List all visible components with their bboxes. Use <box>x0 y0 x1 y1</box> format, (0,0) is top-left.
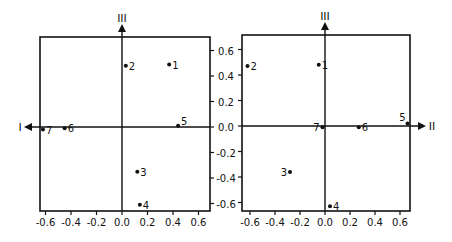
data-point-6: 6 <box>63 123 74 134</box>
y-tick-label: -0.6 <box>216 199 236 210</box>
point-marker <box>167 63 171 67</box>
data-point-1: 1 <box>167 60 178 71</box>
y-tick-label: 0.6 <box>218 46 234 57</box>
data-point-7: 7 <box>41 125 52 136</box>
x-tick-label: -0.2 <box>290 217 310 228</box>
y-tick-label: -0.4 <box>216 173 236 184</box>
x-tick-label: 0.0 <box>114 217 130 228</box>
point-marker <box>328 204 332 208</box>
point-label: 1 <box>172 60 178 71</box>
axis-label-III: III <box>320 10 330 23</box>
point-label: 2 <box>251 61 257 72</box>
x-tick-label: 0.2 <box>140 217 156 228</box>
point-marker <box>63 126 67 130</box>
data-point-2: 2 <box>124 61 135 72</box>
y-tick-label: 0.4 <box>218 71 234 82</box>
data-point-5: 5 <box>176 116 187 128</box>
point-label: 2 <box>129 61 135 72</box>
data-point-6: 6 <box>357 122 368 133</box>
panel-I-vs-III: IIII-0.6-0.4-0.20.00.20.40.61234567 <box>18 12 214 228</box>
point-marker <box>135 170 139 174</box>
point-marker <box>176 124 180 128</box>
y-tick-label: 0.0 <box>218 122 234 133</box>
data-point-3: 3 <box>281 167 292 178</box>
point-marker <box>138 203 142 207</box>
point-label: 6 <box>362 122 368 133</box>
point-label: 3 <box>140 167 146 178</box>
point-marker <box>357 125 361 129</box>
data-point-5: 5 <box>399 112 409 125</box>
point-marker <box>246 64 250 68</box>
point-marker <box>41 128 45 132</box>
panel-II-vs-III: IIIII-0.6-0.4-0.20.00.20.40.61234567 <box>238 10 435 228</box>
axis-label-I: I <box>18 121 21 134</box>
x-tick-label: 0.6 <box>392 217 408 228</box>
data-point-1: 1 <box>317 60 328 71</box>
y-tick-label: -0.2 <box>216 148 236 159</box>
point-label: 4 <box>333 201 339 212</box>
x-tick-label: -0.2 <box>87 217 107 228</box>
point-label: 4 <box>143 200 149 211</box>
point-marker <box>288 170 292 174</box>
data-point-3: 3 <box>135 167 146 178</box>
axis-label-III: III <box>117 12 127 25</box>
x-tick-label: -0.4 <box>265 217 285 228</box>
axis-label-II: II <box>429 120 436 133</box>
x-tick-label: 0.4 <box>367 217 383 228</box>
point-label: 3 <box>281 167 287 178</box>
factor-plots: IIII-0.6-0.4-0.20.00.20.40.61234567IIIII… <box>0 0 452 242</box>
x-tick-label: 0.4 <box>165 217 181 228</box>
point-label: 5 <box>181 116 187 127</box>
point-marker <box>124 64 128 68</box>
data-point-4: 4 <box>138 200 149 211</box>
x-tick-label: -0.4 <box>61 217 81 228</box>
data-point-2: 2 <box>246 61 257 72</box>
point-label: 5 <box>399 112 405 123</box>
point-marker <box>321 125 325 129</box>
x-tick-label: -0.6 <box>36 217 56 228</box>
data-point-7: 7 <box>313 122 324 133</box>
point-label: 1 <box>322 60 328 71</box>
x-tick-label: 0.0 <box>317 217 333 228</box>
x-tick-label: 0.2 <box>342 217 358 228</box>
point-label: 7 <box>313 122 319 133</box>
point-marker <box>317 63 321 67</box>
point-marker <box>406 121 410 125</box>
y-tick-label: 0.2 <box>218 97 234 108</box>
x-tick-label: 0.6 <box>191 217 207 228</box>
point-label: 7 <box>46 125 52 136</box>
point-label: 6 <box>68 123 74 134</box>
x-tick-label: -0.6 <box>240 217 260 228</box>
